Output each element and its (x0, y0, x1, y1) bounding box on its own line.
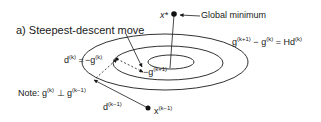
neg-g-k-label: −g(k) (85, 56, 102, 65)
neg-g-k1-base: −g (143, 67, 153, 77)
x-k-minus1-label: x(k−1) (154, 107, 172, 116)
neg-g-k1-sup: (k+1) (153, 66, 167, 72)
note-label: Note: g(k) ⊥ g(k−1) (18, 89, 86, 98)
d-k-minus1-sup: (k−1) (108, 101, 122, 107)
note-prefix: Note: g (18, 88, 47, 98)
global-min-point (171, 11, 177, 17)
steepest-descent-arrow (126, 34, 142, 67)
eq-hd: = Hd (273, 37, 295, 47)
neg-g-k1-label: −g(k+1) (143, 68, 167, 77)
eq-sup-k1: (k+1) (237, 36, 251, 42)
x-star-label: x* (160, 11, 168, 20)
x-k-minus1-sup: (k−1) (159, 105, 173, 111)
eq-sup-dk: (k) (295, 36, 302, 42)
note-sup2: (k−1) (72, 87, 86, 93)
note-perp: ⊥ g (54, 88, 72, 98)
global-min-arrow (180, 15, 200, 16)
equation-label: g(k+1) − g(k) = Hd(k) (232, 38, 302, 47)
eq-minus: − (251, 37, 261, 47)
x-k-minus1-point (146, 106, 151, 111)
diagram-title: a) Steepest-descent move (16, 25, 144, 36)
neg-g-k-base: −g (85, 55, 95, 65)
global-min-label: Global minimum (201, 11, 266, 20)
x-k-point (115, 57, 118, 60)
neg-g-k-sup: (k) (95, 54, 102, 60)
d-k-minus1-label: d(k−1) (103, 103, 122, 112)
d-k-eq: = (76, 55, 84, 65)
global-min-line (170, 15, 174, 68)
note-sup1: (k) (47, 87, 54, 93)
d-k-sup: (k) (69, 54, 76, 60)
d-k-label: d(k) = (64, 56, 84, 65)
contour-middle (113, 46, 223, 80)
